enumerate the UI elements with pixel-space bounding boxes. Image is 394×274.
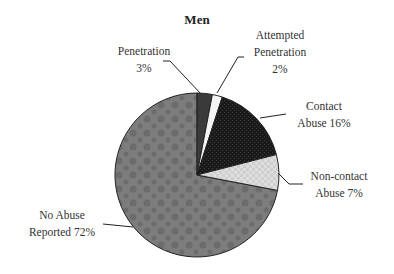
label-attempted-name-1: Attempted — [240, 27, 320, 44]
label-noncontact-name: Non-contact — [299, 168, 379, 185]
label-attempted-penetration: Attempted Penetration 2% — [240, 27, 320, 78]
label-contact-name: Contact — [284, 98, 364, 115]
leader-no-abuse-reported — [103, 224, 133, 227]
label-penetration: Penetration 3% — [104, 43, 184, 77]
label-penetration-name: Penetration — [104, 43, 184, 60]
label-noncontact-value: Abuse 7% — [299, 185, 379, 202]
label-penetration-value: 3% — [104, 60, 184, 77]
label-noabuse-name: No Abuse — [20, 207, 104, 224]
leader-contact-abuse — [260, 114, 286, 118]
label-noabuse-value: Reported 72% — [20, 224, 104, 241]
pie-chart: Men — [0, 0, 394, 274]
label-attempted-value: 2% — [240, 61, 320, 78]
label-attempted-name-2: Penetration — [240, 44, 320, 61]
label-no-abuse-reported: No Abuse Reported 72% — [20, 207, 104, 241]
label-non-contact-abuse: Non-contact Abuse 7% — [299, 168, 379, 202]
label-contact-value: Abuse 16% — [284, 115, 364, 132]
label-contact-abuse: Contact Abuse 16% — [284, 98, 364, 132]
